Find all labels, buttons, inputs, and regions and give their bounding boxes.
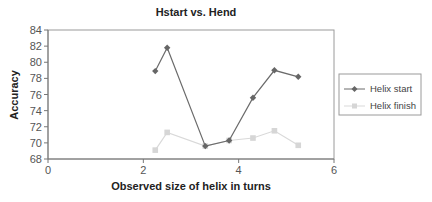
y-tick-label: 84: [30, 24, 42, 36]
y-tick-label: 80: [30, 56, 42, 68]
chart-title: Hstart vs. Hend: [156, 6, 237, 18]
legend: Helix start Helix finish: [339, 74, 421, 115]
x-axis: 0246: [45, 159, 337, 176]
data-point: [164, 130, 170, 136]
plot-area: [48, 30, 334, 159]
square-marker-icon: [352, 104, 357, 109]
legend-label: Helix start: [370, 83, 413, 94]
data-point: [295, 142, 301, 148]
data-point: [272, 128, 278, 134]
x-tick-label: 2: [140, 164, 146, 176]
data-point: [250, 135, 256, 141]
x-tick-label: 0: [45, 164, 51, 176]
line-chart: Hstart vs. Hend 687072747678808284 0246 …: [0, 0, 432, 202]
legend-label: Helix finish: [370, 100, 416, 111]
y-tick-label: 70: [30, 137, 42, 149]
y-tick-label: 72: [30, 121, 42, 133]
y-tick-label: 82: [30, 40, 42, 52]
y-tick-label: 76: [30, 89, 42, 101]
y-axis-label: Accuracy: [8, 69, 20, 119]
x-axis-label: Observed size of helix in turns: [111, 180, 271, 192]
x-tick-label: 6: [331, 164, 337, 176]
x-tick-label: 4: [236, 164, 242, 176]
y-axis: 687072747678808284: [30, 24, 48, 165]
y-tick-label: 78: [30, 72, 42, 84]
y-tick-label: 68: [30, 153, 42, 165]
data-point: [152, 147, 158, 153]
y-tick-label: 74: [30, 105, 42, 117]
